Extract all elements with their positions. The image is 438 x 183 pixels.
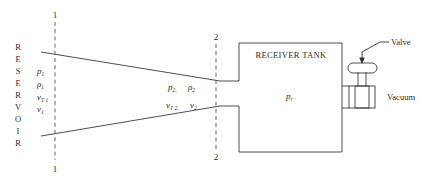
reservoir-label: R E S E R V O I R — [15, 42, 22, 148]
reservoir-letter: V — [15, 102, 22, 112]
receiver-tank-label: RECEIVER TANK — [255, 50, 327, 60]
valve-handle — [348, 63, 377, 73]
station-2-velocity: v2 — [190, 100, 197, 111]
valve-body-outer — [349, 86, 375, 108]
station-2-top-label: 2 — [214, 32, 219, 42]
station-1-total-velocity: vT 1 — [37, 92, 48, 103]
station-1-top-label: 1 — [53, 10, 58, 20]
reservoir-letter: R — [15, 42, 21, 52]
reservoir-letter: E — [15, 78, 20, 88]
station-1-bottom-label: 1 — [53, 164, 58, 174]
valve-label: Valve — [391, 37, 411, 47]
station-2-properties: p2, ρ2 vT 2, v2 — [166, 82, 197, 111]
reservoir-letter: O — [15, 114, 21, 124]
station-1-pressure: p1 — [36, 66, 45, 77]
valve-tank-connector — [342, 86, 349, 108]
station-1-properties: p1 ρ1 vT 1 v1 — [36, 66, 48, 115]
reservoir-letter: S — [16, 66, 21, 76]
receiver-tank-pressure: pr — [285, 91, 294, 102]
reservoir-letter: I — [17, 126, 20, 136]
reservoir-letter: R — [15, 90, 21, 100]
station-2-density: ρ2 — [187, 82, 195, 93]
reservoir-letter: R — [15, 138, 21, 148]
station-2-total-velocity: vT 2, — [166, 100, 179, 111]
station-2-pressure: p2, — [167, 82, 177, 93]
valve-stem — [358, 72, 366, 86]
figure-canvas: 1 1 2 2 R E S E R V O I R p1 ρ1 vT 1 v1 … — [0, 0, 438, 183]
station-1-density: ρ1 — [36, 79, 44, 90]
nozzle-upper-wall — [41, 52, 220, 81]
valve-body-inner — [355, 86, 369, 108]
reservoir-letter: E — [15, 54, 20, 64]
vacuum-label: Vacuum — [387, 92, 415, 102]
valve-leader-line — [362, 42, 380, 59]
station-2-bottom-label: 2 — [214, 152, 219, 162]
nozzle-receiver-tank-diagram: 1 1 2 2 R E S E R V O I R p1 ρ1 vT 1 v1 … — [0, 0, 438, 183]
station-1-velocity: v1 — [37, 104, 44, 115]
